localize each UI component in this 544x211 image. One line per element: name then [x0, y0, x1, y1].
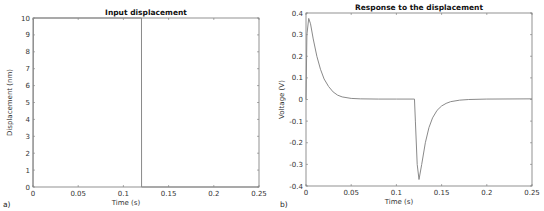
y-tick-label: 8	[26, 48, 30, 56]
x-tick-label: 0.05	[343, 189, 359, 197]
y-tick-label: 0	[26, 184, 30, 192]
x-tick-label: 0.1	[118, 190, 129, 198]
x-tick-label: 0.25	[524, 189, 540, 197]
series-line	[306, 18, 532, 179]
y-tick-label: 0.3	[292, 31, 303, 39]
chart-input-displacement: 00.050.10.150.20.25012345678910Input dis…	[3, 8, 267, 209]
y-tick-label: 9	[26, 31, 30, 39]
y-tick-label: 0.4	[292, 10, 304, 18]
series-line	[33, 18, 259, 187]
y-tick-label: 0.2	[292, 53, 303, 61]
y-tick-label: 2	[26, 150, 30, 158]
x-tick-label: 0.2	[481, 189, 492, 197]
y-tick-label: 3	[26, 133, 30, 141]
chart-response-voltage: 00.050.10.150.20.25-0.4-0.3-0.2-0.100.10…	[278, 3, 540, 209]
y-tick-label: -0.4	[289, 183, 303, 191]
y-tick-label: 0.1	[292, 74, 303, 82]
y-tick-label: 0	[299, 96, 303, 104]
x-tick-label: 0.1	[391, 189, 402, 197]
chart-title: Response to the displacement	[355, 3, 483, 12]
x-axis-label: Time (s)	[111, 199, 141, 207]
chart-title: Input displacement	[105, 8, 187, 17]
figure: 00.050.10.150.20.25012345678910Input dis…	[0, 0, 544, 211]
x-tick-label: 0	[304, 189, 308, 197]
y-axis-label: Voltage (V)	[278, 80, 286, 119]
y-tick-label: 10	[21, 15, 30, 23]
y-axis-label: Displacement (nm)	[6, 69, 14, 136]
x-tick-label: 0.15	[161, 190, 177, 198]
plot-frame	[33, 18, 259, 187]
y-tick-label: 4	[26, 116, 31, 124]
panel-label: a)	[3, 200, 11, 209]
x-tick-label: 0.05	[70, 190, 86, 198]
y-tick-label: -0.2	[289, 139, 303, 147]
y-tick-label: -0.3	[289, 161, 303, 169]
x-tick-label: 0.15	[434, 189, 450, 197]
y-tick-label: 1	[26, 167, 30, 175]
y-tick-label: -0.1	[289, 118, 303, 126]
x-tick-label: 0.25	[251, 190, 267, 198]
y-tick-label: 6	[26, 82, 31, 90]
panel-label: b)	[280, 200, 288, 209]
y-tick-label: 5	[26, 99, 30, 107]
x-tick-label: 0.2	[208, 190, 219, 198]
x-tick-label: 0	[31, 190, 35, 198]
y-tick-label: 7	[26, 65, 30, 73]
x-axis-label: Time (s)	[384, 198, 414, 206]
